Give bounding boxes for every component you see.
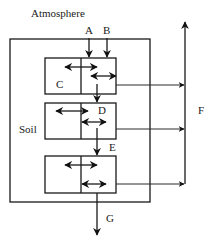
input-a-label: A: [85, 24, 93, 36]
soil-boundary-box: [10, 39, 150, 202]
atmosphere-label: Atmosphere: [31, 7, 85, 19]
flow-f-label: F: [198, 104, 204, 116]
bottom-layer-box: [45, 156, 116, 193]
middle-layer-box: D: [45, 103, 116, 139]
layer-d-label: D: [98, 104, 106, 116]
soil-label: Soil: [19, 123, 37, 135]
soil-atmosphere-flow-diagram: Atmosphere Soil A B C D E G F: [0, 0, 212, 244]
flow-e-label: E: [109, 141, 116, 153]
flow-g-label: G: [106, 212, 114, 224]
input-b-label: B: [103, 24, 110, 36]
top-layer-box: C: [45, 58, 116, 94]
layer-c-label: C: [56, 78, 63, 90]
